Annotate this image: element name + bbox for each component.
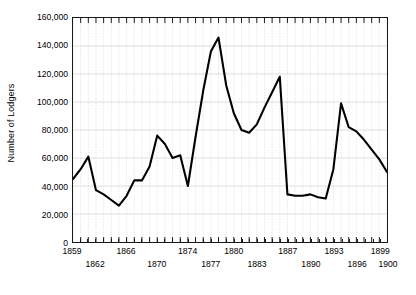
y-tick-label: 100,000 [37, 97, 68, 107]
x-tick-mark [249, 239, 250, 243]
x-tick-mark [319, 239, 320, 243]
x-tick-mark [288, 239, 289, 243]
x-tick-label: 1880 [224, 246, 243, 256]
plot-area [72, 17, 388, 243]
x-tick-mark [118, 239, 119, 243]
x-tick-mark [211, 239, 212, 243]
x-tick-mark [126, 239, 127, 243]
x-tick-label: 1874 [178, 246, 197, 256]
y-tick-label: 120,000 [37, 69, 68, 79]
x-tick-label: 1890 [301, 259, 320, 269]
x-tick-mark [234, 239, 235, 243]
x-tick-mark [373, 239, 374, 243]
y-tick-label: 80,000 [42, 125, 68, 135]
x-tick-mark [157, 239, 158, 243]
data-series-layer [73, 18, 387, 242]
x-tick-mark [141, 239, 142, 243]
x-axis-tick-labels: 1859186618741880188718931899186218701877… [72, 246, 388, 280]
x-tick-mark [380, 239, 381, 243]
x-tick-label: 1900 [378, 259, 397, 269]
x-tick-mark [280, 239, 281, 243]
x-tick-label: 1896 [348, 259, 367, 269]
y-tick-label: 160,000 [37, 12, 68, 22]
x-tick-mark [365, 239, 366, 243]
x-tick-mark [134, 239, 135, 243]
y-tick-label: 20,000 [42, 210, 68, 220]
x-tick-label: 1862 [86, 259, 105, 269]
x-tick-mark [296, 239, 297, 243]
x-tick-mark [103, 239, 104, 243]
y-tick-label: 40,000 [42, 182, 68, 192]
x-tick-label: 1883 [247, 259, 266, 269]
x-tick-mark [242, 239, 243, 243]
x-tick-label: 1866 [116, 246, 135, 256]
x-tick-mark [357, 239, 358, 243]
x-tick-label: 1877 [201, 259, 220, 269]
y-tick-label: 60,000 [42, 153, 68, 163]
x-tick-label: 1870 [147, 259, 166, 269]
x-tick-mark [188, 239, 189, 243]
x-axis-tick-marks [72, 239, 388, 243]
x-tick-mark [203, 239, 204, 243]
x-tick-mark [164, 239, 165, 243]
x-tick-mark [180, 239, 181, 243]
x-tick-mark [172, 239, 173, 243]
y-axis-tick-labels: 020,00040,00060,00080,000100,000120,0001… [0, 17, 68, 243]
x-tick-label: 1899 [371, 246, 390, 256]
x-tick-label: 1859 [62, 246, 81, 256]
x-tick-mark [257, 239, 258, 243]
x-tick-mark [342, 239, 343, 243]
x-tick-mark [326, 239, 327, 243]
x-tick-mark [218, 239, 219, 243]
lodgers-line-chart: Number of Lodgers 020,00040,00060,00080,… [0, 0, 416, 295]
x-tick-label: 1893 [324, 246, 343, 256]
x-tick-mark [334, 239, 335, 243]
x-tick-mark [303, 239, 304, 243]
x-tick-mark [265, 239, 266, 243]
x-tick-mark [272, 239, 273, 243]
x-tick-label: 1887 [278, 246, 297, 256]
x-tick-mark [80, 239, 81, 243]
x-tick-mark [95, 239, 96, 243]
x-tick-mark [349, 239, 350, 243]
x-tick-mark [149, 239, 150, 243]
x-tick-mark [311, 239, 312, 243]
data-line [73, 38, 387, 206]
x-tick-mark [87, 239, 88, 243]
x-tick-mark [226, 239, 227, 243]
y-tick-label: 140,000 [37, 40, 68, 50]
x-tick-mark [195, 239, 196, 243]
x-tick-mark [111, 239, 112, 243]
